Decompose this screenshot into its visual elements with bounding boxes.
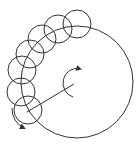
center-rotation-arrow-icon xyxy=(63,68,80,97)
small-circle xyxy=(63,10,91,38)
rolling-circles-diagram xyxy=(0,0,140,149)
small-circle xyxy=(16,40,44,68)
small-circle xyxy=(28,25,56,53)
